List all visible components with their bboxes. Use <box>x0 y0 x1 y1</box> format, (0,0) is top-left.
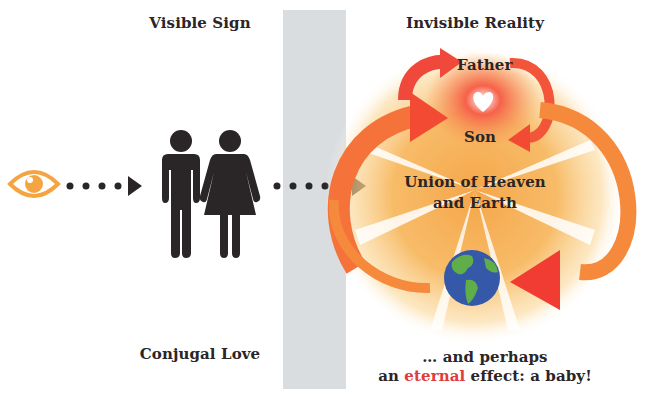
label-union-line2: and Earth <box>390 193 560 214</box>
heading-invisible-reality: Invisible Reality <box>390 14 560 32</box>
dotted-arrow-icon <box>67 176 143 196</box>
caption-line2-pre: an <box>378 367 404 385</box>
woman-icon <box>200 130 260 258</box>
man-icon <box>162 130 200 258</box>
globe-icon <box>444 250 500 306</box>
label-union: Union of Heaven and Earth <box>390 172 560 214</box>
label-union-line1: Union of Heaven <box>390 172 560 193</box>
caption-eternal-effect: … and perhaps an eternal effect: a baby! <box>370 348 600 386</box>
heading-visible-sign: Visible Sign <box>130 14 270 32</box>
caption-highlight-eternal: eternal <box>404 367 465 385</box>
caption-conjugal-love: Conjugal Love <box>130 345 270 363</box>
caption-line1: … and perhaps <box>370 348 600 367</box>
eye-icon <box>10 172 58 196</box>
caption-line2: an eternal effect: a baby! <box>370 367 600 386</box>
label-father: Father <box>457 56 512 74</box>
label-son: Son <box>464 128 496 146</box>
caption-line2-post: effect: a baby! <box>465 367 592 385</box>
